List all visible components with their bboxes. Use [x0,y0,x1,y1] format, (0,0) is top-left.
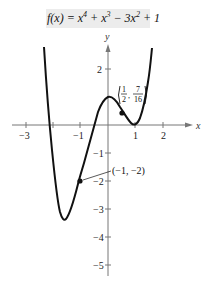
y-tick-label: −1 [93,148,104,159]
x-tick-label: −3 [19,130,30,141]
y-tick-label: −4 [93,232,104,243]
y-axis: y 2 −1 −2 −3 −4 −5 [93,31,111,276]
x-axis: x −3 −1 1 2 [12,120,201,141]
x-tick-label: −1 [73,130,84,141]
svg-text:1: 1 [122,85,126,94]
y-axis-arrow-icon [106,44,111,52]
svg-text:2: 2 [122,95,126,104]
y-tick-label: 2 [97,64,102,75]
x-axis-label: x [195,120,201,131]
x-axis-arrow-icon [185,123,193,128]
y-axis-label: y [104,31,110,42]
svg-text:16: 16 [134,95,142,104]
y-tick-label: −2 [93,176,104,187]
svg-text:7: 7 [136,85,140,94]
y-tick-label: −5 [93,260,104,271]
function-plot: x −3 −1 1 2 y 2 −1 −2 −3 −4 −5 1 [0,0,203,291]
x-tick-label: 1 [133,130,138,141]
annotation-point1: 1 2 , 7 16 [119,85,147,104]
point-neg1-neg2 [77,178,82,183]
x-tick-label: 2 [161,130,166,141]
y-tick-label: −3 [93,204,104,215]
point-half-seven-sixteenths [119,110,124,115]
svg-text:(−1, −2): (−1, −2) [112,165,145,177]
svg-text:,: , [128,91,130,100]
